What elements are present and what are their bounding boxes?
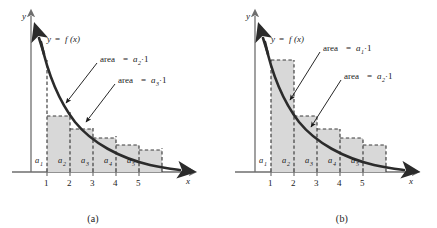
curve-label-equals-a: =	[55, 34, 60, 44]
annotation-b-1-text: area	[323, 43, 338, 53]
annotation-a-2-tail: ·1	[159, 75, 167, 85]
annotation-a-1-text: area	[100, 54, 115, 64]
annotation-b-2: area = a 2 ·1	[344, 71, 393, 83]
x-tick-label-b-3: 3	[314, 178, 319, 188]
x-tick-label-b-4: 4	[337, 178, 342, 188]
curve-label-a: y = f (x)	[46, 34, 80, 44]
x-tick-label-b-5: 5	[360, 178, 365, 188]
y-axis-label-b: y	[245, 11, 250, 21]
bar-label-b-4: a	[328, 155, 332, 165]
curve-label-equals-b: =	[279, 34, 284, 44]
x-tick-label-a-5: 5	[136, 178, 141, 188]
bar-label-b-2: a	[282, 155, 286, 165]
panel-b-plot: y x y = f (x) area = a 1 ·1 area = a 2	[219, 0, 437, 228]
curve-label-arg-a: (x)	[70, 34, 80, 44]
bar-label-a-3-sub: 3	[85, 161, 89, 167]
panel-a-plot: y x y = f (x) area = a 2 ·1 area = a	[0, 0, 218, 228]
x-axis-label-b: x	[408, 176, 413, 186]
annotation-b-1: area = a 1 ·1	[323, 43, 372, 55]
bar-label-b-3: a	[305, 155, 309, 165]
annotation-a-1-tail: ·1	[141, 54, 149, 64]
curve-upper-arrow-a	[39, 38, 44, 54]
curve-upper-arrow-b	[263, 38, 268, 54]
integral-test-figure: y x y = f (x) area = a 2 ·1 area = a	[0, 0, 437, 228]
x-tick-label-b-1: 1	[268, 178, 273, 188]
annotation-b-1-equals: =	[346, 43, 351, 53]
bar-label-a-4-sub: 4	[109, 161, 112, 167]
bar-a-5	[139, 150, 162, 172]
annotation-b-2-text: area	[344, 71, 359, 81]
bar-label-a-2-sub: 2	[63, 161, 66, 167]
x-tick-label-a-2: 2	[67, 178, 72, 188]
bar-label-a-3: a	[81, 155, 85, 165]
panel-b-caption: (b)	[233, 213, 437, 224]
y-axis-label-a: y	[21, 11, 26, 21]
curve-label-f-b: f	[289, 34, 293, 44]
bar-label-a-5-sub: 5	[132, 161, 135, 167]
bar-label-b-4-sub: 4	[333, 161, 336, 167]
annotation-b-2-tail: ·1	[385, 71, 393, 81]
curve-label-y-a: y	[46, 34, 51, 44]
annotation-b-1-tail: ·1	[364, 43, 372, 53]
bar-label-a-4: a	[104, 155, 108, 165]
x-tick-labels-b: 1 2 3 4 5	[268, 178, 365, 188]
x-tick-label-a-1: 1	[44, 178, 49, 188]
annotation-a-2: area = a 3 ·1	[118, 75, 167, 87]
x-tick-label-a-4: 4	[113, 178, 118, 188]
bar-label-b-3-sub: 3	[309, 161, 313, 167]
bar-label-a-2: a	[58, 155, 62, 165]
annotation-a-1-equals: =	[123, 54, 128, 64]
x-tick-label-b-2: 2	[291, 178, 296, 188]
curve-label-y-b: y	[270, 34, 275, 44]
annotation-b-2-equals: =	[367, 71, 372, 81]
bar-label-b-1: a	[259, 155, 263, 165]
curve-label-arg-b: (x)	[294, 34, 304, 44]
bar-label-b-5-sub: 5	[356, 161, 359, 167]
bar-label-b-2-sub: 2	[287, 161, 290, 167]
curve-label-b: y = f (x)	[270, 34, 304, 44]
bar-label-b-1-sub: 1	[264, 161, 267, 167]
bar-label-a-5: a	[127, 155, 131, 165]
panel-a: y x y = f (x) area = a 2 ·1 area = a	[0, 0, 218, 228]
annotation-a-2-equals: =	[141, 75, 146, 85]
panel-b: y x y = f (x) area = a 1 ·1 area = a 2	[219, 0, 437, 228]
annotation-leaders-b	[290, 52, 341, 127]
bar-label-a-1-sub: 1	[40, 161, 43, 167]
annotation-a-1: area = a 2 ·1	[100, 54, 149, 66]
x-axis-label-a: x	[185, 176, 190, 186]
x-tick-label-a-3: 3	[90, 178, 95, 188]
curve-label-f-a: f	[65, 34, 69, 44]
annotation-leaders-a	[66, 63, 115, 122]
bar-label-a-1: a	[35, 155, 39, 165]
bar-label-b-5: a	[351, 155, 355, 165]
annotation-a-2-text: area	[118, 75, 133, 85]
panel-a-caption: (a)	[0, 213, 202, 224]
x-tick-labels-a: 1 2 3 4 5	[44, 178, 141, 188]
